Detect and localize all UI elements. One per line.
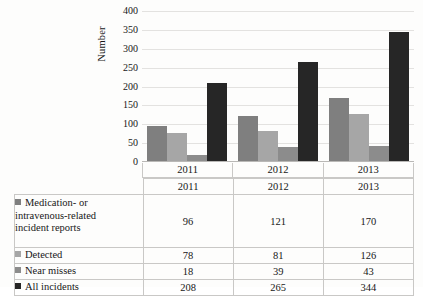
- table-corner-cell: [15, 179, 144, 195]
- bar: [167, 133, 187, 162]
- bar: [258, 131, 278, 162]
- bar-group-2012: [238, 11, 318, 162]
- legend-label-cell: All incidents: [15, 280, 144, 296]
- table-value-cell: 344: [323, 280, 413, 296]
- x-tick-label: 2011: [143, 163, 233, 177]
- bar: [329, 98, 349, 162]
- legend-label-cell: Detected: [15, 248, 144, 264]
- y-tick-label: 400: [108, 6, 138, 16]
- y-tick-label: 300: [108, 44, 138, 54]
- table-body: 201120122013Medication- orintravenous-re…: [15, 179, 414, 296]
- bar: [238, 116, 258, 162]
- bar: [349, 114, 369, 162]
- legend-label-cell: Near misses: [15, 264, 144, 280]
- bar: [298, 62, 318, 162]
- table-value-cell: 126: [323, 248, 413, 264]
- table-value-cell: 43: [323, 264, 413, 280]
- table-column-header: 2013: [323, 179, 413, 195]
- table-value-cell: 39: [233, 264, 323, 280]
- table-row: Detected7881126: [15, 248, 414, 264]
- y-tick-label: 200: [108, 82, 138, 92]
- table-row: All incidents208265344: [15, 280, 414, 296]
- y-tick-label: 250: [108, 63, 138, 73]
- bar: [369, 146, 389, 162]
- legend-label-text: All incidents: [25, 281, 79, 292]
- table-column-header: 2012: [233, 179, 323, 195]
- y-tick-label: 0: [108, 157, 138, 167]
- table-value-cell: 78: [143, 248, 233, 264]
- table-value-cell: 170: [323, 195, 413, 248]
- x-axis-baseline: [142, 161, 414, 162]
- legend-swatch-icon: [15, 283, 21, 289]
- legend-swatch-icon: [15, 199, 21, 205]
- bar: [278, 147, 298, 162]
- legend-data-table: 201120122013Medication- orintravenous-re…: [14, 178, 414, 296]
- bar-group-2013: [329, 11, 409, 162]
- y-tick-label: 100: [108, 119, 138, 129]
- table-row: Medication- orintravenous-relatedinciden…: [15, 195, 414, 248]
- bar: [389, 32, 409, 162]
- legend-label-text: Near misses: [25, 265, 76, 276]
- y-tick-label: 350: [108, 25, 138, 35]
- y-tick-label: 150: [108, 100, 138, 110]
- bar-group-2011: [147, 11, 227, 162]
- bar-chart: Number 400350300250200150100500 20112012…: [0, 0, 423, 163]
- bar: [147, 126, 167, 162]
- x-axis-category-band: 201120122013: [142, 163, 414, 178]
- plot-area: [142, 11, 414, 162]
- y-tick-label: 50: [108, 138, 138, 148]
- legend-label-text: Detected: [25, 249, 62, 260]
- table-value-cell: 96: [143, 195, 233, 248]
- legend-swatch-icon: [15, 267, 21, 273]
- legend-swatch-icon: [15, 251, 21, 257]
- table-value-cell: 81: [233, 248, 323, 264]
- table-value-cell: 18: [143, 264, 233, 280]
- table-row: Near misses183943: [15, 264, 414, 280]
- x-tick-label: 2013: [324, 163, 413, 177]
- table-column-header: 2011: [143, 179, 233, 195]
- legend-label-text: Medication- orintravenous-relatedinciden…: [15, 197, 96, 233]
- table-header-row: 201120122013: [15, 179, 414, 195]
- bar: [207, 83, 227, 162]
- y-axis-tick-labels: 400350300250200150100500: [108, 6, 138, 163]
- table-value-cell: 265: [233, 280, 323, 296]
- table-value-cell: 121: [233, 195, 323, 248]
- legend-label-cell: Medication- orintravenous-relatedinciden…: [15, 195, 144, 248]
- x-tick-label: 2012: [233, 163, 323, 177]
- table-value-cell: 208: [143, 280, 233, 296]
